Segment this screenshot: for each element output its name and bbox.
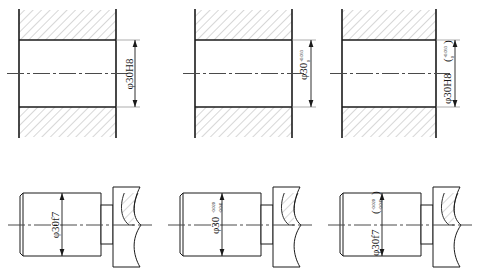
dimension-line bbox=[453, 40, 458, 107]
dimension-line bbox=[309, 40, 314, 107]
dimension-label: φ30 bbox=[209, 216, 221, 234]
lower-deviation: 0 bbox=[450, 56, 455, 58]
hatch-lower bbox=[342, 107, 436, 137]
lower-deviation: 0 bbox=[306, 60, 311, 62]
upper-deviation: +0.033 bbox=[443, 46, 448, 58]
hatch-upper bbox=[19, 10, 116, 40]
upper-deviation: +0.033 bbox=[299, 50, 304, 62]
dimension-label: φ30f7 bbox=[369, 229, 381, 256]
upper-deviation: -0.020 bbox=[211, 202, 216, 213]
view-shaft-code: φ30f7 bbox=[0, 139, 160, 277]
view-shaft-code-deviations: φ30f7 ( -0.020 -0.041 ) bbox=[320, 139, 480, 277]
dimension-label: φ30 bbox=[297, 62, 309, 80]
flange-hatch bbox=[441, 189, 461, 225]
lower-deviation: -0.041 bbox=[378, 199, 383, 210]
view-shaft-deviations: φ30 -0.020 -0.041 bbox=[160, 139, 320, 277]
view-hole-code: φ30H8 bbox=[0, 0, 160, 138]
view-hole-deviations: φ30 +0.033 0 bbox=[160, 0, 320, 138]
flange-hatch bbox=[281, 189, 301, 225]
hatch-upper bbox=[195, 10, 292, 40]
drawing-sheet: φ30H8 bbox=[0, 0, 480, 277]
paren-close: ) bbox=[369, 191, 382, 195]
dimension-label: φ30H8 bbox=[441, 73, 453, 104]
dimension-label: φ30f7 bbox=[49, 211, 61, 238]
view-hole-code-deviations: φ30H8 ( +0.033 0 ) bbox=[320, 0, 480, 138]
hatch-lower bbox=[195, 107, 292, 137]
dimension-label: φ30H8 bbox=[123, 58, 135, 89]
flange-hatch bbox=[121, 189, 141, 225]
paren-close: ) bbox=[441, 40, 454, 44]
upper-deviation: -0.020 bbox=[371, 199, 376, 210]
hatch-upper bbox=[342, 10, 436, 40]
hatch-lower bbox=[19, 107, 116, 137]
lower-deviation: -0.041 bbox=[218, 202, 223, 213]
